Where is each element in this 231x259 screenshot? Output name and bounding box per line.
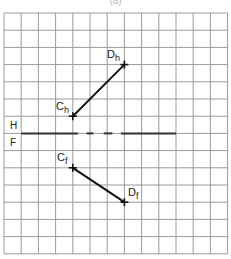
label-c-h: Ch <box>56 100 69 115</box>
label-d-f: Df <box>128 186 139 201</box>
label-c-f: Cf <box>57 151 68 166</box>
label-f: F <box>10 137 16 148</box>
descriptive-geometry-diagram: H F Ch Dh Cf Df <box>0 0 231 259</box>
label-d-h: Dh <box>107 48 120 63</box>
label-h: H <box>10 120 17 131</box>
line-cd-horizontal <box>73 65 125 117</box>
